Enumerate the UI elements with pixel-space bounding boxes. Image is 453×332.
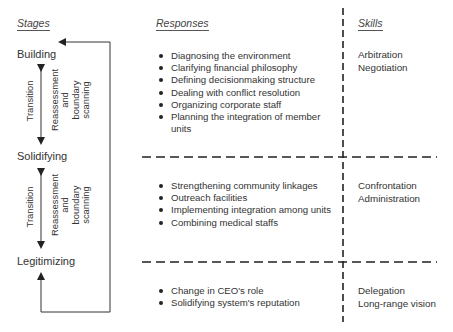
skill-item: Administration: [358, 193, 420, 206]
responses-solidifying: Strengthening community linkages Outreac…: [156, 180, 331, 229]
response-item: Diagnosing the environment: [156, 50, 338, 62]
skills-legitimizing: Delegation Long-range vision: [358, 285, 436, 310]
response-item: Outreach facilities: [156, 192, 331, 204]
skill-item: Arbitration: [358, 49, 408, 62]
header-stages: Stages: [17, 17, 50, 31]
process-line: and: [60, 165, 71, 245]
process-label-1d: scanning: [81, 60, 92, 140]
process-line: scanning: [81, 165, 92, 245]
response-item: Defining decisionmaking structure: [156, 74, 338, 86]
skills-building: Arbitration Negotiation: [358, 49, 408, 74]
response-item: Clarifying financial philosophy: [156, 62, 338, 74]
response-item: Solidifying system's reputation: [156, 297, 338, 309]
skills-solidifying: Confrontation Administration: [358, 180, 420, 205]
header-responses: Responses: [156, 17, 209, 31]
response-item: Strengthening community linkages: [156, 180, 331, 192]
stage-solidifying: Solidifying: [17, 150, 67, 162]
skill-item: Confrontation: [358, 180, 420, 193]
responses-legitimizing: Change in CEO's role Solidifying system'…: [156, 285, 338, 309]
stage-building: Building: [17, 48, 56, 60]
skill-item: Long-range vision: [358, 298, 436, 311]
response-item: Combining medical staffs: [156, 217, 331, 229]
response-item: Change in CEO's role: [156, 285, 338, 297]
transition-label-2: Transition: [25, 177, 36, 237]
response-item: Planning the integration of member units: [156, 111, 338, 135]
process-line: scanning: [81, 60, 92, 140]
skill-item: Negotiation: [358, 62, 408, 75]
process-label-1b: and: [60, 60, 71, 140]
stage-legitimizing: Legitimizing: [17, 255, 75, 267]
response-item: Implementing integration among units: [156, 204, 331, 216]
response-item: Organizing corporate staff: [156, 99, 338, 111]
header-skills: Skills: [358, 17, 383, 31]
skill-item: Delegation: [358, 285, 436, 298]
process-label-2b: and: [60, 165, 71, 245]
process-line: and: [60, 60, 71, 140]
response-item: Dealing with conflict resolution: [156, 87, 338, 99]
responses-building: Diagnosing the environment Clarifying fi…: [156, 50, 338, 135]
transition-label-1: Transition: [25, 71, 36, 131]
process-label-2d: scanning: [81, 165, 92, 245]
